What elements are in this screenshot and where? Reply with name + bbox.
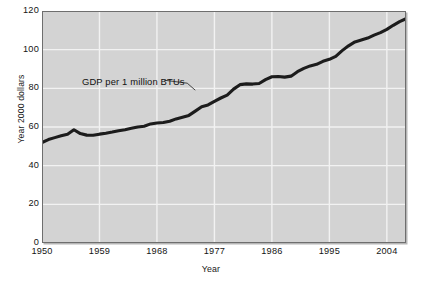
x-tick-label: 2004 [364, 247, 410, 256]
x-tick-label: 1977 [191, 247, 237, 256]
x-tick-label: 1986 [249, 247, 295, 256]
x-tick-label: 1968 [134, 247, 180, 256]
x-tick-label: 1950 [19, 247, 65, 256]
x-tick-label: 1995 [306, 247, 352, 256]
gdp-per-btu-line-chart: Year 2000 dollars 020406080100120 GDP pe… [0, 0, 422, 285]
x-axis-tick-labels: 1950195919681977198619952004 [0, 0, 422, 285]
x-axis-title: Year [0, 264, 422, 274]
x-tick-label: 1959 [76, 247, 122, 256]
